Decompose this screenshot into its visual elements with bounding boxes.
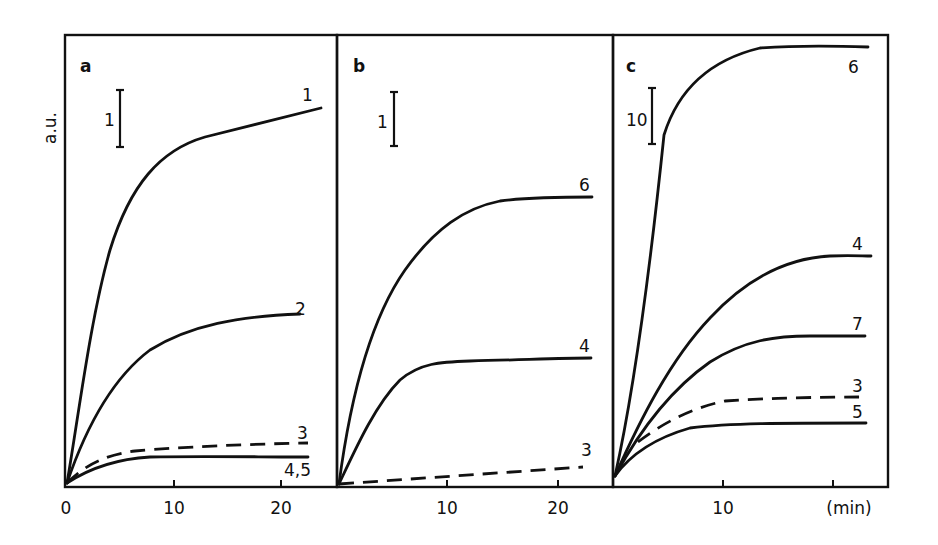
panel-a-label-45: 4,5 [284, 460, 311, 480]
panel-a-scale-label: 1 [104, 110, 115, 130]
panel-c-label-6: 6 [848, 57, 859, 77]
panel-b-scale-label: 1 [377, 112, 388, 132]
panel-b-label-4: 4 [579, 336, 590, 356]
kinetics-figure: a.u. a 1 0 10 20 1 2 3 4,5 b [0, 0, 938, 545]
panel-c-curve-7 [615, 336, 865, 476]
panel-c-tick-label-10: 10 [712, 498, 734, 518]
panel-a-letter: a [80, 56, 91, 76]
panel-c-scale-label: 10 [626, 110, 648, 130]
panel-a-curve-1 [67, 108, 321, 483]
panel-b-label-3: 3 [581, 440, 592, 460]
panel-a-tick-label-10: 10 [163, 498, 185, 518]
panel-c-label-3: 3 [852, 376, 863, 396]
panel-c-label-4: 4 [852, 234, 863, 254]
panel-a-tick-label-0: 0 [61, 498, 72, 518]
panel-b-scale-bar: 1 [377, 92, 398, 146]
panel-c-curve-5 [615, 423, 866, 476]
panel-b-label-6: 6 [579, 175, 590, 195]
panel-b-tick-label-10: 10 [436, 498, 458, 518]
panel-a-scale-bar: 1 [104, 90, 124, 147]
panel-a-label-2: 2 [295, 299, 306, 319]
panel-c-label-7: 7 [852, 314, 863, 334]
panel-b-tick-label-20: 20 [547, 498, 569, 518]
panel-b-curve-6 [339, 197, 592, 484]
panel-a-curve-3 [67, 443, 308, 483]
panel-b-curve-3 [339, 467, 583, 484]
panel-a: a 1 0 10 20 1 2 3 4,5 [61, 35, 337, 518]
panel-b: b 1 10 20 6 4 3 [337, 35, 613, 518]
panel-b-curve-4 [339, 358, 591, 484]
panel-c-scale-bar: 10 [626, 88, 656, 144]
x-unit-label: (min) [826, 498, 871, 518]
y-axis-label: a.u. [40, 112, 60, 144]
panel-c-label-5: 5 [852, 402, 863, 422]
panel-b-letter: b [353, 56, 365, 76]
panel-a-tick-label-20: 20 [270, 498, 292, 518]
panel-a-curve-45 [67, 457, 308, 483]
panel-c: c 10 10 (min) 6 4 7 3 5 [613, 35, 888, 518]
panel-c-frame [613, 35, 888, 487]
panel-a-label-1: 1 [302, 85, 313, 105]
panel-a-label-3: 3 [297, 423, 308, 443]
panel-c-letter: c [626, 56, 636, 76]
panel-b-frame [337, 35, 613, 487]
